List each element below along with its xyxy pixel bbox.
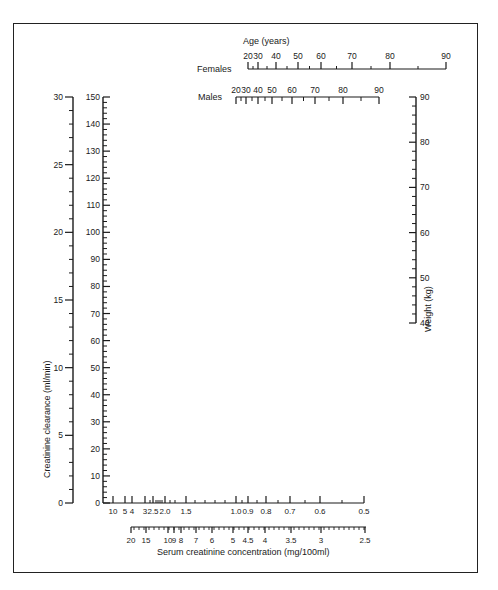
tick-label: 10 [54,363,64,373]
tick-label: 90 [374,85,384,95]
tick-label: 80 [385,51,395,61]
tick-label: 20 [231,85,241,95]
tick-label: 10 [91,471,101,481]
tick-label: 120 [86,173,100,183]
tick-label: 90 [420,92,430,102]
tick-label: 20 [54,227,64,237]
tick-label: 0.5 [358,507,370,516]
tick-label: 20 [91,444,101,454]
tick-label: 9 [172,536,177,545]
tick-label: 0.8 [260,507,272,516]
tick-label: 0.7 [284,507,296,516]
tick-label: 40 [271,51,281,61]
tick-label: 100 [86,227,100,237]
tick-label: 5 [231,536,236,545]
tick-label: 0.9 [242,507,254,516]
tick-label: 5 [123,507,128,516]
tick-label: 25 [54,160,64,170]
tick-label: 60 [420,228,430,238]
tick-label: 8 [179,536,184,545]
tick-label: 1.0 [230,507,242,516]
tick-label: 130 [86,146,100,156]
serum-axis-label: Serum creatinine concentration (mg/100ml… [157,547,330,557]
tick-label: 2.5 [147,507,159,516]
tick-label: 30 [253,51,263,61]
tick-label: 90 [91,254,101,264]
tick-label: 4 [263,536,268,545]
tick-label: 70 [310,85,320,95]
nomogram: 051015202530 010203040506070809010011012… [0,0,498,590]
serum-creatinine-axis-1: 105432.52.01.51.00.90.80.70.60.5 [103,496,370,516]
tick-label: 20 [127,536,136,545]
tick-label: 70 [420,182,430,192]
tick-label: 0 [58,498,63,508]
tick-label: 4 [130,507,135,516]
tick-label: 5 [58,430,63,440]
tick-label: 3 [319,536,324,545]
tick-label: 80 [338,85,348,95]
tick-label: 1.5 [180,507,192,516]
tick-label: 20 [243,51,253,61]
females-label: Females [197,64,232,74]
tick-label: 30 [54,92,64,102]
tick-label: 140 [86,119,100,129]
tick-label: 60 [316,51,326,61]
males-label: Males [198,92,223,102]
clearance-axis-label: Creatinine clearance (ml/min) [42,360,52,478]
tick-label: 60 [91,336,101,346]
tick-label: 10 [109,507,118,516]
tick-label: 70 [91,309,101,319]
age-females-axis: 2030405060708090 [243,51,451,69]
tick-label: 40 [91,390,101,400]
clearance-30-axis: 051015202530 [54,92,73,508]
clearance-150-axis: 0102030405060708090100110120130140150 [86,92,110,508]
tick-label: 2.0 [159,507,171,516]
age-males-axis: 2030405060708090 [231,85,384,104]
tick-label: 60 [287,85,297,95]
tick-label: 15 [142,536,151,545]
tick-label: 3.5 [285,536,297,545]
tick-label: 50 [267,85,277,95]
tick-label: 50 [91,363,101,373]
tick-label: 110 [86,200,100,210]
tick-label: 50 [420,273,430,283]
tick-label: 30 [91,417,101,427]
tick-label: 70 [347,51,357,61]
tick-label: 6 [210,536,215,545]
tick-label: 40 [253,85,263,95]
weight-axis-label: Weight (kg) [423,286,433,332]
tick-label: 15 [54,295,64,305]
tick-label: 80 [420,137,430,147]
tick-label: 80 [91,281,101,291]
tick-label: 0 [95,498,100,508]
tick-label: 7 [194,536,199,545]
tick-label: 30 [241,85,251,95]
tick-label: 50 [293,51,303,61]
serum-creatinine-axis-2: 201510987654.543.532.5 [127,527,372,545]
tick-label: 4.5 [242,536,254,545]
tick-label: 90 [441,51,451,61]
tick-label: 0.6 [314,507,326,516]
age-title: Age (years) [243,36,290,46]
tick-label: 150 [86,92,100,102]
tick-label: 2.5 [359,536,371,545]
